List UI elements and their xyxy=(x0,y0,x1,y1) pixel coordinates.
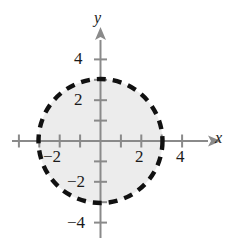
graph-figure: −2 2 4 4 2 −2 −4 x y xyxy=(0,0,235,242)
x-tick-label-2: 2 xyxy=(135,148,144,165)
coordinate-plane-svg xyxy=(0,0,235,242)
y-tick-label-neg4: −4 xyxy=(67,214,85,231)
y-tick-label-neg2: −2 xyxy=(67,173,85,190)
y-axis-arrowhead xyxy=(95,27,106,40)
y-tick-label-2: 2 xyxy=(74,91,83,108)
x-tick-label-neg2: −2 xyxy=(43,148,61,165)
y-axis-label: y xyxy=(94,10,101,26)
x-axis-label: x xyxy=(215,130,222,146)
y-tick-label-4: 4 xyxy=(74,50,83,67)
x-tick-label-4: 4 xyxy=(176,148,185,165)
